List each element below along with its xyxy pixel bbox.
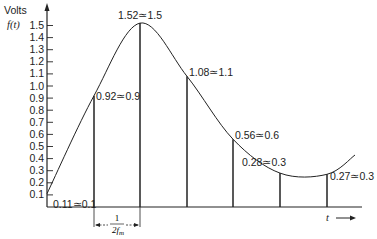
y-tick-label: 0.1 [29, 188, 44, 200]
sample-lines: 0.11≃0.10.92≃0.91.52≃1.51.08≃1.10.56≃0.6… [53, 9, 374, 210]
y-tick-label: 0.3 [29, 164, 44, 176]
y-tick-label: 0.7 [29, 116, 44, 128]
y-tick-label: 0.2 [29, 176, 44, 188]
y-tick-label: 0.4 [29, 152, 44, 164]
y-axis-title: Volts [4, 4, 27, 16]
x-axis-title: t [326, 212, 330, 223]
y-tick-label: 0.5 [29, 140, 44, 152]
y-axis-arrow-icon [45, 3, 50, 11]
sample-value-label: 0.11≃0.1 [53, 198, 96, 210]
sample-value-label: 0.28≃0.3 [242, 156, 286, 168]
y-tick-label: 0.9 [29, 92, 44, 104]
y-ticks: 0.10.20.30.40.50.60.70.80.91.01.11.21.31… [29, 19, 53, 200]
sample-value-label: 0.56≃0.6 [235, 129, 279, 141]
y-tick-label: 0.8 [29, 104, 44, 116]
interval-numerator: 1 [115, 213, 120, 223]
y-tick-label: 1.5 [29, 19, 44, 31]
y-tick-label: 1.1 [29, 67, 44, 79]
y-tick-label: 0.6 [29, 128, 44, 140]
y-tick-label: 1.4 [29, 31, 44, 43]
interval-denominator: 2fm [112, 225, 124, 237]
interval-arrow-right-icon [134, 223, 139, 227]
sample-value-label: 1.08≃1.1 [189, 66, 233, 78]
y-tick-label: 1.2 [29, 55, 44, 67]
interval-arrow-left-icon [95, 223, 100, 227]
y-tick-label: 1.3 [29, 43, 44, 55]
x-axis-arrow-icon [350, 216, 356, 221]
sample-value-label: 1.52≃1.5 [118, 9, 162, 21]
sample-value-label: 0.92≃0.9 [96, 90, 140, 102]
sampling-chart: Volts f(t) 0.10.20.30.40.50.60.70.80.91.… [0, 0, 377, 239]
y-tick-label: 1.0 [29, 80, 44, 92]
signal-curve [47, 23, 355, 194]
sample-value-label: 0.27≃0.3 [330, 170, 374, 182]
y-axis-subtitle: f(t) [7, 19, 20, 31]
